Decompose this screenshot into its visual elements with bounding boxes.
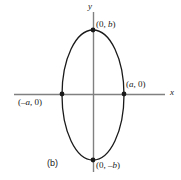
- vertex-point-left: [60, 92, 65, 97]
- vertex-point-top: [91, 28, 96, 33]
- ellipse-figure: y x (0, b) (a, 0) (–a, 0) (0, –b) (b): [0, 0, 181, 180]
- vertex-point-bottom: [91, 158, 96, 163]
- y-axis-label: y: [88, 2, 92, 11]
- vertex-label-left-close: , 0): [30, 97, 42, 107]
- vertex-label-bottom-open: (0, –: [96, 160, 113, 170]
- vertex-label-bottom: (0, –b): [96, 161, 120, 170]
- vertex-label-top-close: ): [113, 19, 116, 29]
- ellipse-plot-canvas: [0, 0, 181, 180]
- vertex-label-top: (0, b): [96, 20, 116, 29]
- vertex-label-left-open: (–: [18, 97, 26, 107]
- vertex-label-left: (–a, 0): [18, 98, 42, 107]
- vertex-label-top-open: (0,: [96, 19, 108, 29]
- vertex-label-right-close: , 0): [134, 79, 146, 89]
- vertex-label-right: (a, 0): [126, 80, 146, 89]
- vertex-point-right: [122, 92, 127, 97]
- figure-caption: (b): [47, 159, 58, 168]
- vertex-label-bottom-close: ): [117, 160, 120, 170]
- x-axis-label: x: [170, 88, 174, 97]
